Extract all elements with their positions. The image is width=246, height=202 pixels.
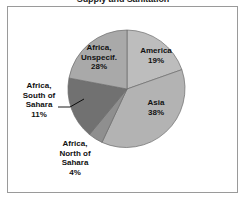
pie-label-america-line1: America	[128, 46, 184, 56]
pie-label-africa-south-of-sahara: Africa, South of Sahara 11%	[8, 81, 70, 119]
pie-label-america-value: 19%	[128, 56, 184, 66]
pie-label-africa-north-line3: Sahara	[46, 158, 104, 168]
pie-label-africa-unspecif-value: 28%	[70, 62, 128, 72]
pie-label-africa-north-of-sahara: Africa, North of Sahara 4%	[46, 139, 104, 177]
pie-label-africa-unspecif-line1: Africa,	[70, 43, 128, 53]
pie-label-asia-value: 38%	[134, 108, 178, 118]
pie-label-asia: Asia 38%	[134, 98, 178, 117]
pie-label-africa-south-line2: South of	[8, 91, 70, 101]
pie-label-africa-south-line3: Sahara	[8, 100, 70, 110]
pie-label-africa-unspecif-line2: Unspecif.	[70, 53, 128, 63]
pie-label-africa-north-line1: Africa,	[46, 139, 104, 149]
pie-label-africa-unspecif: Africa, Unspecif. 28%	[70, 43, 128, 72]
pie-label-africa-south-line1: Africa,	[8, 81, 70, 91]
pie-label-america: America 19%	[128, 46, 184, 65]
chart-figure: Supply and Sanitation America 19% Africa…	[0, 0, 246, 202]
pie-label-asia-line1: Asia	[134, 98, 178, 108]
pie-label-africa-north-value: 4%	[46, 168, 104, 178]
pie-label-africa-south-value: 11%	[8, 110, 70, 120]
pie-label-africa-north-line2: North of	[46, 149, 104, 159]
